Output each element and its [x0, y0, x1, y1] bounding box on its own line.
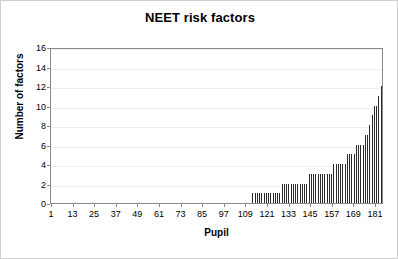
y-tick-label: 8	[41, 122, 46, 131]
y-tick-label: 16	[36, 44, 46, 53]
x-tickmark	[310, 204, 311, 207]
x-tick-label: 37	[111, 209, 121, 219]
x-tick-label: 145	[303, 209, 318, 219]
x-tickmark	[332, 204, 333, 207]
x-axis-label: Pupil	[50, 227, 383, 238]
x-axis-ticks: 11325374961738597109121133145157169181	[1, 209, 398, 223]
bar	[382, 67, 383, 204]
x-tick-label: 73	[175, 209, 185, 219]
x-tick-label: 121	[259, 209, 274, 219]
x-tick-label: 109	[238, 209, 253, 219]
x-tick-label: 13	[67, 209, 77, 219]
neet-risk-factors-chart: NEET risk factors Number of factors 0246…	[0, 0, 398, 259]
x-tick-label: 85	[197, 209, 207, 219]
x-tickmark	[116, 204, 117, 207]
y-tick-label: 10	[36, 103, 46, 112]
plot-area	[50, 48, 383, 204]
x-tick-label: 1	[48, 209, 53, 219]
bar-series	[51, 49, 382, 203]
x-tickmark	[375, 204, 376, 207]
x-tickmark	[267, 204, 268, 207]
y-tick-label: 12	[36, 83, 46, 92]
y-tickmark	[47, 204, 50, 205]
x-tick-label: 97	[219, 209, 229, 219]
x-tick-label: 181	[367, 209, 382, 219]
x-tick-label: 169	[346, 209, 361, 219]
x-tick-label: 157	[324, 209, 339, 219]
x-tickmark	[202, 204, 203, 207]
x-tickmark	[289, 204, 290, 207]
x-tick-label: 25	[89, 209, 99, 219]
x-tick-label: 61	[154, 209, 164, 219]
y-tick-label: 4	[41, 161, 46, 170]
chart-title: NEET risk factors	[1, 10, 398, 25]
y-tick-label: 2	[41, 181, 46, 190]
x-tickmark	[94, 204, 95, 207]
y-axis-label: Number of factors	[14, 32, 25, 162]
x-tickmark	[245, 204, 246, 207]
y-tick-label: 6	[41, 142, 46, 151]
x-tickmark	[73, 204, 74, 207]
x-tick-label: 49	[132, 209, 142, 219]
x-tickmark	[224, 204, 225, 207]
y-tick-label: 0	[41, 200, 46, 209]
x-tickmark	[353, 204, 354, 207]
y-tick-label: 14	[36, 64, 46, 73]
y-axis-ticks: 0246810121416	[27, 41, 46, 211]
x-tickmark	[159, 204, 160, 207]
x-tickmark	[51, 204, 52, 207]
x-tickmark	[181, 204, 182, 207]
x-tick-label: 133	[281, 209, 296, 219]
x-tickmark	[137, 204, 138, 207]
